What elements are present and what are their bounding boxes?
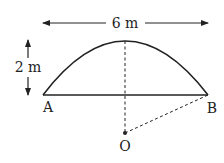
width-label: 6 m — [112, 15, 139, 31]
dashed-radius-ob — [125, 95, 208, 133]
arc-diagram: 6 m 2 m A B O — [0, 0, 224, 163]
label-b: B — [207, 100, 217, 116]
height-label: 2 m — [15, 59, 42, 75]
label-o: O — [119, 138, 130, 154]
label-a: A — [42, 99, 54, 115]
center-point-o — [123, 131, 127, 135]
